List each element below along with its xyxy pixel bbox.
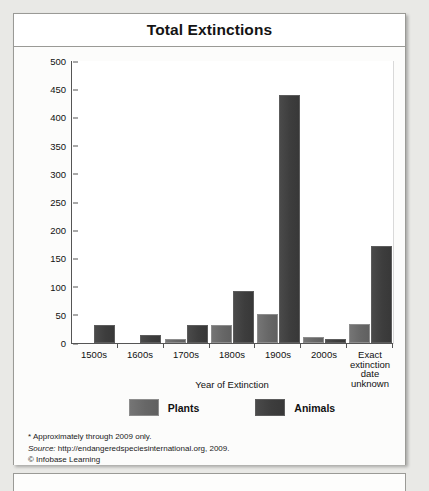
bar-plants[interactable] bbox=[303, 337, 324, 344]
y-tick-150: 150 bbox=[50, 253, 72, 264]
source-line: Source: http://endangeredspeciesinternat… bbox=[28, 443, 393, 455]
legend-item-plants[interactable]: Plants bbox=[129, 399, 200, 416]
y-tick-250: 250 bbox=[50, 197, 72, 208]
bar-group bbox=[72, 61, 118, 343]
x-axis-label: Year of Extinction bbox=[71, 379, 393, 390]
chart-legend: PlantsAnimals bbox=[71, 399, 393, 416]
bar-animals[interactable] bbox=[140, 335, 161, 343]
plot-area-wrapper: Number of Extinctions 500450400350300250… bbox=[14, 47, 405, 369]
source-label: Source: bbox=[28, 444, 56, 453]
chart-notes: * Approximately through 2009 only. Sourc… bbox=[28, 431, 393, 466]
legend-item-animals[interactable]: Animals bbox=[255, 399, 335, 416]
footnote-approximate: * Approximately through 2009 only. bbox=[28, 431, 393, 443]
bar-plants[interactable] bbox=[349, 324, 370, 343]
bar-group bbox=[301, 61, 347, 343]
bar-group bbox=[118, 61, 164, 343]
bar-plants[interactable] bbox=[211, 325, 232, 343]
chart-title-bar: Total Extinctions bbox=[14, 14, 405, 47]
y-tick-100: 100 bbox=[50, 281, 72, 292]
bar-group bbox=[210, 61, 256, 343]
bar-plants[interactable] bbox=[257, 314, 278, 343]
legend-label-animals: Animals bbox=[294, 402, 335, 414]
legend-swatch-plants bbox=[129, 399, 159, 416]
bar-animals[interactable] bbox=[94, 325, 115, 343]
y-tick-500: 500 bbox=[50, 56, 72, 67]
source-value: http://endangeredspeciesinternational.or… bbox=[56, 444, 230, 453]
legend-swatch-animals bbox=[255, 399, 285, 416]
chart-figure: Total Extinctions Number of Extinctions … bbox=[13, 13, 406, 465]
y-tick-mark bbox=[73, 343, 78, 344]
plot-area: 500450400350300250200150100500 bbox=[71, 61, 393, 344]
y-tick-300: 300 bbox=[50, 168, 72, 179]
bar-animals[interactable] bbox=[187, 325, 208, 343]
y-tick-0: 0 bbox=[61, 338, 72, 349]
y-tick-50: 50 bbox=[55, 309, 72, 320]
bar-group bbox=[164, 61, 210, 343]
bar-group bbox=[255, 61, 301, 343]
bottom-panel bbox=[13, 473, 406, 491]
bar-plants[interactable] bbox=[165, 339, 186, 343]
bar-animals[interactable] bbox=[233, 291, 254, 343]
bar-animals[interactable] bbox=[279, 95, 300, 343]
y-tick-350: 350 bbox=[50, 140, 72, 151]
y-tick-400: 400 bbox=[50, 112, 72, 123]
bar-groups bbox=[72, 61, 393, 343]
page-title: Total Extinctions bbox=[147, 21, 272, 39]
bar-animals[interactable] bbox=[371, 246, 392, 343]
y-tick-200: 200 bbox=[50, 225, 72, 236]
bar-animals[interactable] bbox=[325, 339, 346, 343]
y-tick-450: 450 bbox=[50, 84, 72, 95]
copyright-line: © Infobase Learning bbox=[28, 454, 393, 466]
legend-label-plants: Plants bbox=[168, 402, 200, 414]
bar-group bbox=[347, 61, 393, 343]
chart-body: Number of Extinctions 500450400350300250… bbox=[14, 47, 405, 465]
